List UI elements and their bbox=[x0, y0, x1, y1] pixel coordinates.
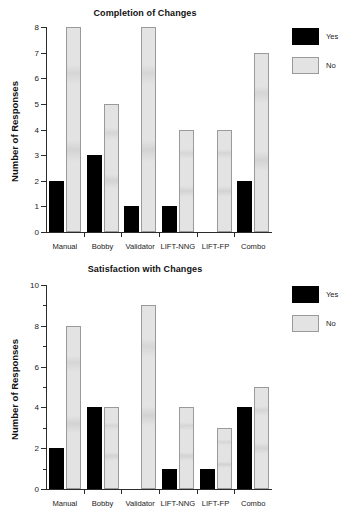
bar-yes-lift-nng bbox=[162, 206, 177, 232]
legend-item-no: No bbox=[292, 315, 338, 332]
y-axis-tick-label: 10 bbox=[30, 281, 39, 290]
y-axis-line bbox=[46, 285, 47, 490]
x-axis-tick bbox=[159, 490, 160, 494]
y-axis-tick bbox=[41, 448, 46, 449]
y-axis-tick bbox=[41, 181, 46, 182]
bar-yes-combo bbox=[237, 407, 252, 489]
bar-yes-lift-fp bbox=[200, 469, 215, 489]
chart-title: Completion of Changes bbox=[0, 8, 290, 18]
x-axis-tick-label: Bobby bbox=[92, 499, 114, 508]
y-axis-label-text: Number of Responses bbox=[9, 339, 20, 440]
y-axis-tick-label: 2 bbox=[35, 176, 39, 185]
y-axis-minor-tick bbox=[43, 387, 46, 388]
y-axis-minor-tick bbox=[43, 346, 46, 347]
y-axis-line bbox=[46, 27, 47, 233]
y-axis-tick bbox=[41, 155, 46, 156]
y-axis-tick bbox=[41, 285, 46, 286]
bar-no-lift-fp bbox=[217, 130, 232, 233]
x-axis-tick-label: Validator bbox=[125, 499, 154, 508]
x-axis-tick-label: LIFT-NNG bbox=[161, 499, 196, 508]
legend-swatch-yes bbox=[292, 28, 319, 45]
chart-title: Satisfaction with Changes bbox=[0, 264, 290, 274]
bar-no-bobby bbox=[104, 407, 119, 489]
y-axis-tick bbox=[41, 232, 46, 233]
legend: Yes No bbox=[292, 28, 338, 86]
bar-yes-lift-nng bbox=[162, 469, 177, 489]
y-axis-tick bbox=[41, 130, 46, 131]
legend: Yes No bbox=[292, 286, 338, 344]
y-axis-label-text: Number of Responses bbox=[9, 81, 20, 182]
legend-label-no: No bbox=[326, 61, 336, 70]
chart-satisfaction-with-changes: Satisfaction with Changes Number of Resp… bbox=[0, 260, 357, 520]
y-axis-tick-label: 4 bbox=[35, 125, 39, 134]
y-axis-tick-label: 5 bbox=[35, 99, 39, 108]
x-axis-tick-label: Combo bbox=[241, 499, 265, 508]
legend-label-no: No bbox=[326, 319, 336, 328]
x-axis-tick-label: Bobby bbox=[92, 242, 114, 251]
bar-no-combo bbox=[254, 387, 269, 489]
y-axis-label: Number of Responses bbox=[6, 26, 22, 236]
bar-yes-combo bbox=[237, 181, 252, 232]
bar-yes-bobby bbox=[87, 407, 102, 489]
y-axis-tick bbox=[41, 206, 46, 207]
x-axis-tick bbox=[234, 233, 235, 237]
bar-no-manual bbox=[66, 27, 81, 232]
y-axis-minor-tick bbox=[43, 428, 46, 429]
x-axis-tick bbox=[197, 233, 198, 237]
bar-yes-manual bbox=[49, 181, 64, 232]
bar-yes-validator bbox=[124, 206, 139, 232]
y-axis-tick bbox=[41, 27, 46, 28]
bar-no-validator bbox=[141, 27, 156, 232]
y-axis-tick-label: 6 bbox=[35, 362, 39, 371]
plot-area: 0246810ManualBobbyValidatorLIFT-NNGLIFT-… bbox=[46, 285, 272, 490]
bar-no-manual bbox=[66, 326, 81, 489]
x-axis-tick-label: Combo bbox=[241, 242, 265, 251]
y-axis-tick bbox=[41, 489, 46, 490]
bar-yes-manual bbox=[49, 448, 64, 489]
y-axis-tick-label: 4 bbox=[35, 403, 39, 412]
bar-no-bobby bbox=[104, 104, 119, 232]
legend-swatch-no bbox=[292, 57, 319, 74]
y-axis-tick bbox=[41, 367, 46, 368]
x-axis-tick bbox=[159, 233, 160, 237]
x-axis-tick bbox=[197, 490, 198, 494]
legend-item-yes: Yes bbox=[292, 286, 338, 303]
y-axis-tick-label: 8 bbox=[35, 321, 39, 330]
y-axis-tick bbox=[41, 407, 46, 408]
y-axis-tick-label: 7 bbox=[35, 48, 39, 57]
y-axis-tick bbox=[41, 78, 46, 79]
y-axis-tick-label: 0 bbox=[35, 228, 39, 237]
y-axis-tick bbox=[41, 53, 46, 54]
y-axis-tick-label: 6 bbox=[35, 74, 39, 83]
legend-item-no: No bbox=[292, 57, 338, 74]
y-axis-tick-label: 0 bbox=[35, 485, 39, 494]
y-axis-tick bbox=[41, 104, 46, 105]
y-axis-tick bbox=[41, 326, 46, 327]
x-axis-tick bbox=[121, 490, 122, 494]
x-axis-tick-label: LIFT-NNG bbox=[161, 242, 196, 251]
x-axis-tick bbox=[84, 490, 85, 494]
y-axis-minor-tick bbox=[43, 469, 46, 470]
y-axis-tick-label: 3 bbox=[35, 151, 39, 160]
x-axis-tick-label: Validator bbox=[125, 242, 154, 251]
bar-no-validator bbox=[141, 305, 156, 489]
x-axis-tick-label: Manual bbox=[52, 499, 77, 508]
legend-label-yes: Yes bbox=[326, 32, 338, 41]
x-axis-tick-label: LIFT-FP bbox=[202, 499, 229, 508]
bar-no-combo bbox=[254, 53, 269, 232]
legend-item-yes: Yes bbox=[292, 28, 338, 45]
bar-no-lift-nng bbox=[179, 407, 194, 489]
x-axis-tick-label: Manual bbox=[52, 242, 77, 251]
legend-swatch-no bbox=[292, 315, 319, 332]
y-axis-tick-label: 1 bbox=[35, 202, 39, 211]
x-axis-tick-label: LIFT-FP bbox=[202, 242, 229, 251]
bar-yes-bobby bbox=[87, 155, 102, 232]
bar-no-lift-nng bbox=[179, 130, 194, 233]
x-axis-tick bbox=[121, 233, 122, 237]
y-axis-tick-label: 8 bbox=[35, 23, 39, 32]
plot-area: 012345678ManualBobbyValidatorLIFT-NNGLIF… bbox=[46, 27, 272, 233]
chart-completion-of-changes: Completion of Changes Number of Response… bbox=[0, 0, 357, 260]
legend-label-yes: Yes bbox=[326, 290, 338, 299]
legend-swatch-yes bbox=[292, 286, 319, 303]
x-axis-tick bbox=[234, 490, 235, 494]
